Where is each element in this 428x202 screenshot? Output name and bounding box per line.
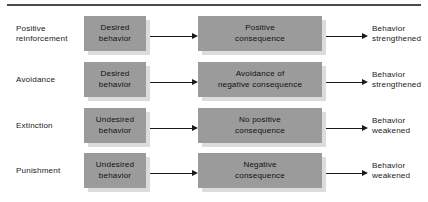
category-label: Positive reinforcement xyxy=(16,16,90,52)
category-label: Avoidance xyxy=(16,62,90,98)
arrow-head-icon xyxy=(362,170,368,176)
arrow-behavior-to-consequence xyxy=(150,79,198,86)
category-label: Extinction xyxy=(16,108,90,144)
arrow-shaft xyxy=(326,173,362,174)
behavior-box-line1: Undesired xyxy=(96,115,134,125)
arrow-shaft xyxy=(150,128,192,129)
consequence-box-line1: No positive xyxy=(239,115,281,125)
consequence-box: No positive consequence xyxy=(198,108,322,143)
outcome-label-line2: weakened xyxy=(372,171,410,181)
arrow-shaft xyxy=(326,128,362,129)
outcome-label: Behavior strengthened xyxy=(372,16,428,52)
top-divider-rule xyxy=(7,4,421,6)
arrow-shaft xyxy=(150,36,192,37)
reinforcement-contingencies-diagram: Positive reinforcement Desired behavior … xyxy=(0,0,428,202)
arrow-behavior-to-consequence xyxy=(150,125,198,132)
behavior-box-line1: Desired xyxy=(100,23,129,33)
behavior-box-line2: behavior xyxy=(99,34,131,44)
behavior-box: Undesired behavior xyxy=(84,108,146,143)
outcome-label: Behavior strengthened xyxy=(372,62,428,98)
consequence-box-line1: Negative xyxy=(243,160,276,170)
behavior-box-line1: Desired xyxy=(100,69,129,79)
diagram-row-positive-reinforcement: Positive reinforcement Desired behavior … xyxy=(0,16,428,52)
category-label: Punishment xyxy=(16,153,90,189)
outcome-label: Behavior weakened xyxy=(372,108,428,144)
behavior-box: Desired behavior xyxy=(84,16,146,51)
outcome-label-line1: Behavior xyxy=(372,161,405,171)
diagram-row-extinction: Extinction Undesired behavior No positiv… xyxy=(0,108,428,144)
behavior-box-line1: Undesired xyxy=(96,160,134,170)
category-label-line2: reinforcement xyxy=(16,34,68,44)
arrow-shaft xyxy=(150,173,192,174)
consequence-box: Avoidance of negative consequence xyxy=(198,62,322,97)
outcome-label-line2: strengthened xyxy=(372,80,421,90)
category-label-line1: Punishment xyxy=(16,166,60,176)
outcome-label-line2: strengthened xyxy=(372,34,421,44)
category-label-line1: Positive xyxy=(16,24,46,34)
arrow-behavior-to-consequence xyxy=(150,33,198,40)
arrow-consequence-to-outcome xyxy=(326,79,368,86)
consequence-box-line2: consequence xyxy=(235,171,285,181)
consequence-box: Positive consequence xyxy=(198,16,322,51)
category-label-line1: Avoidance xyxy=(16,75,55,85)
arrow-head-icon xyxy=(362,125,368,131)
consequence-box-line2: consequence xyxy=(235,126,285,136)
consequence-box-line1: Positive xyxy=(245,23,275,33)
arrow-shaft xyxy=(326,36,362,37)
consequence-box-line2: consequence xyxy=(235,34,285,44)
outcome-label-line2: weakened xyxy=(372,126,410,136)
behavior-box: Desired behavior xyxy=(84,62,146,97)
arrow-consequence-to-outcome xyxy=(326,170,368,177)
behavior-box: Undesired behavior xyxy=(84,153,146,188)
consequence-box-line2: negative consequence xyxy=(218,80,302,90)
arrow-shaft xyxy=(150,82,192,83)
outcome-label-line1: Behavior xyxy=(372,116,405,126)
outcome-label-line1: Behavior xyxy=(372,70,405,80)
consequence-box-line1: Avoidance of xyxy=(236,69,285,79)
arrow-consequence-to-outcome xyxy=(326,33,368,40)
behavior-box-line2: behavior xyxy=(99,171,131,181)
arrow-head-icon xyxy=(362,79,368,85)
arrow-consequence-to-outcome xyxy=(326,125,368,132)
behavior-box-line2: behavior xyxy=(99,80,131,90)
behavior-box-line2: behavior xyxy=(99,126,131,136)
outcome-label: Behavior weakened xyxy=(372,153,428,189)
diagram-row-punishment: Punishment Undesired behavior Negative c… xyxy=(0,153,428,189)
outcome-label-line1: Behavior xyxy=(372,24,405,34)
diagram-row-avoidance: Avoidance Desired behavior Avoidance of … xyxy=(0,62,428,98)
consequence-box: Negative consequence xyxy=(198,153,322,188)
arrow-behavior-to-consequence xyxy=(150,170,198,177)
arrow-shaft xyxy=(326,82,362,83)
arrow-head-icon xyxy=(362,33,368,39)
category-label-line1: Extinction xyxy=(16,121,53,131)
